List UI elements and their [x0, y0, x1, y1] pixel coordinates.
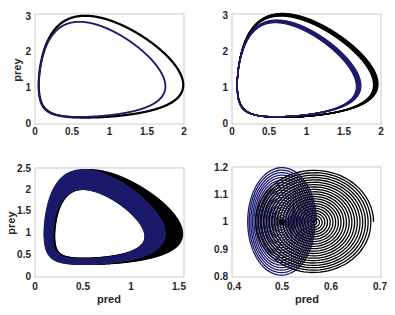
x-tick: 0: [32, 126, 38, 137]
x-tick: 0.5: [262, 126, 276, 137]
y-axis-label: prey: [5, 211, 17, 235]
y-tick: 3: [222, 10, 228, 21]
x-tick: 1: [107, 126, 113, 137]
y-tick: 1.1: [214, 189, 228, 200]
y-tick: 1: [25, 227, 31, 238]
y-tick: 0.5: [17, 249, 31, 260]
x-tick: 1.5: [337, 126, 351, 137]
x-tick: 0.6: [324, 281, 338, 292]
y-tick: 3: [25, 11, 31, 22]
x-tick: 0.5: [76, 281, 90, 292]
x-tick: 0: [229, 126, 235, 137]
x-tick: 0: [32, 281, 38, 292]
y-tick: 0.9: [214, 244, 228, 255]
y-tick: 0: [25, 118, 31, 129]
x-tick: 2: [181, 126, 187, 137]
y-tick: 0: [222, 118, 228, 129]
y-tick-labels: 0 1 2 3: [25, 11, 31, 129]
x-tick: 1.5: [172, 281, 186, 292]
panel-bottom-left: 0 0.5 1 1.5 0 0.5 1 1.5 2 2.5 pred prey: [5, 163, 186, 305]
x-axis-label: pred: [295, 293, 319, 305]
x-tick-labels: 0 0.5 1 1.5 2: [229, 126, 384, 137]
y-tick: 1: [222, 82, 228, 93]
x-tick-labels: 0 0.5 1 1.5: [32, 281, 186, 292]
x-tick: 0.4: [227, 281, 241, 292]
y-tick-labels: 0 1 2 3: [222, 10, 228, 129]
y-tick: 0: [25, 271, 31, 282]
equilibrium-point: [279, 219, 285, 225]
y-tick: 2: [222, 46, 228, 57]
y-tick-labels: 0 0.5 1 1.5 2 2.5: [17, 163, 31, 282]
x-tick: 0.5: [65, 126, 79, 137]
y-tick: 2: [25, 184, 31, 195]
x-tick: 1.5: [140, 126, 154, 137]
y-tick: 2.5: [17, 163, 31, 174]
x-tick: 1: [128, 281, 134, 292]
y-tick: 1.5: [17, 205, 31, 216]
panel-top-left: 0 0.5 1 1.5 2 0 1 2 3 prey: [11, 11, 187, 137]
x-tick: 0.5: [275, 281, 289, 292]
y-tick: 1: [222, 216, 228, 227]
x-tick: 2: [378, 126, 384, 137]
panel-top-right: 0 0.5 1 1.5 2 0 1 2 3: [222, 10, 384, 137]
y-tick-labels: 0.8 0.9 1 1.1 1.2: [214, 162, 228, 282]
x-tick: 1: [304, 126, 310, 137]
y-tick: 0.8: [214, 271, 228, 282]
y-tick: 1: [25, 82, 31, 93]
x-tick-labels: 0.4 0.5 0.6 0.7: [227, 281, 387, 292]
figure-canvas: 0 0.5 1 1.5 2 0 1 2 3 prey 0 0.5 1 1.5 2…: [0, 0, 395, 315]
x-axis-label: pred: [97, 293, 121, 305]
x-tick-labels: 0 0.5 1 1.5 2: [32, 126, 187, 137]
x-tick: 0.7: [373, 281, 387, 292]
y-tick: 1.2: [214, 162, 228, 173]
y-axis-label: prey: [11, 58, 23, 82]
panel-bottom-right: 0.4 0.5 0.6 0.7 0.8 0.9 1 1.1 1.2 pred: [214, 162, 387, 305]
y-tick: 2: [25, 46, 31, 57]
